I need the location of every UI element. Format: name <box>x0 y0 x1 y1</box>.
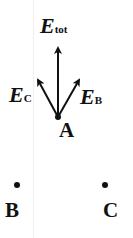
e-tot-label: Etot <box>40 15 68 37</box>
point-b-label: B <box>5 200 19 221</box>
point-a-label: A <box>59 120 74 141</box>
e-c-arrow <box>38 80 58 117</box>
point-b-dot <box>14 182 20 188</box>
e-b-label: EB <box>80 86 102 108</box>
point-c-label: C <box>103 200 118 221</box>
e-b-arrow <box>58 80 79 117</box>
e-c-label: EC <box>9 84 32 106</box>
point-c-dot <box>102 182 108 188</box>
